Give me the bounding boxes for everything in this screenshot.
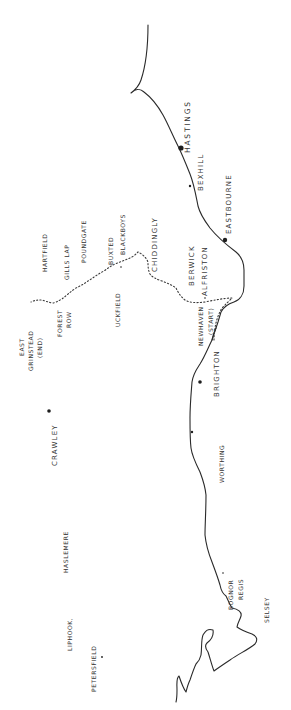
- label-chiddingly: CHIDDINGLY: [152, 217, 159, 272]
- label-haslemere: HASLEMERE: [63, 531, 69, 573]
- bognor-dot: [222, 572, 224, 574]
- label-grinstead: GRINSTEAD: [28, 331, 34, 371]
- crawley-dot: [47, 409, 51, 413]
- label-liphook: LIPHOOK,: [67, 618, 73, 651]
- label-east: EAST: [19, 338, 25, 356]
- brighton-dot: [198, 380, 202, 384]
- label-newhaven: NEWHAVEN: [198, 306, 204, 346]
- label-poundgate: POUNDGATE: [81, 220, 87, 263]
- label-bognor: BOGNOR: [228, 580, 234, 610]
- label-berwick: BERWICK: [189, 245, 196, 286]
- coastline: [131, 25, 257, 702]
- label-brighton: BRIGHTON: [214, 350, 221, 397]
- label-worthing: WORTHING: [219, 445, 225, 483]
- label-hastings: HASTINGS: [184, 100, 192, 153]
- label-gills-lap: GILLS LAP: [64, 245, 70, 280]
- label-eastbourne: EASTBOURNE: [226, 174, 233, 234]
- petersfield-dot: [101, 656, 103, 658]
- label-crawley: CRAWLEY: [52, 424, 59, 466]
- bexhill-dot: [189, 185, 191, 187]
- uckfield-dot: [120, 266, 122, 268]
- label-newhaven-start: (START): [208, 308, 214, 335]
- label-hartfield: HARTFIELD: [42, 234, 48, 272]
- label-bexhill: BEXHILL: [198, 153, 205, 191]
- label-buxted: BUXTED: [108, 237, 114, 265]
- label-regis: REGIS: [238, 579, 244, 600]
- label-blackboys: BLACKBOYS: [120, 214, 126, 255]
- label-selsey: SELSEY: [264, 597, 270, 623]
- sketch-map: [0, 0, 291, 710]
- label-end: (END): [37, 337, 43, 358]
- label-alfriston: ALFRISTON: [202, 246, 209, 296]
- worthing-dot: [191, 431, 193, 433]
- eastbourne-dot: [223, 238, 227, 242]
- label-petersfield: PETERSFIELD: [91, 646, 97, 692]
- label-uckfield: UCKFIELD: [115, 293, 121, 327]
- label-row: ROW: [66, 311, 72, 328]
- label-forest: FOREST: [57, 310, 63, 337]
- alfriston-dot: [204, 297, 206, 299]
